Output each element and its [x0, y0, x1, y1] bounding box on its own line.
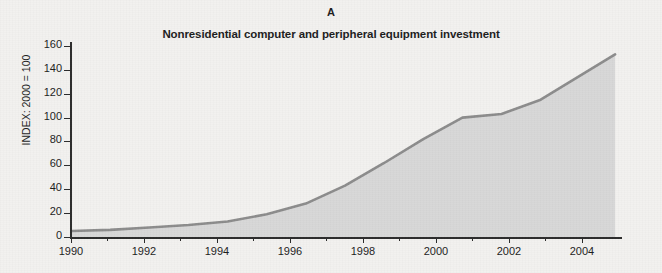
y-axis-line: [70, 42, 72, 238]
x-tick-label: 2004: [558, 245, 606, 257]
y-tick-label: 0: [22, 229, 62, 241]
x-tick-mark-minor: [326, 237, 327, 241]
x-tick-mark: [363, 237, 364, 243]
x-tick-mark: [290, 237, 291, 243]
y-tick-label: 40: [22, 181, 62, 193]
x-tick-mark: [509, 237, 510, 243]
y-tick-label: 60: [22, 157, 62, 169]
x-tick-mark: [71, 237, 72, 243]
y-tick-label: 80: [22, 133, 62, 145]
x-tick-mark-minor: [399, 237, 400, 241]
y-tick-label: 20: [22, 205, 62, 217]
plot-area: [71, 46, 619, 237]
x-tick-mark-minor: [107, 237, 108, 241]
series-fill: [71, 54, 615, 237]
x-tick-label: 2002: [485, 245, 533, 257]
x-tick-label: 1996: [266, 245, 314, 257]
y-tick-label: 120: [22, 86, 62, 98]
x-tick-label: 1990: [47, 245, 95, 257]
y-tick-label: 100: [22, 110, 62, 122]
y-tick-label: 140: [22, 62, 62, 74]
chart-figure: A Nonresidential computer and peripheral…: [0, 0, 662, 273]
x-tick-label: 1998: [339, 245, 387, 257]
x-tick-mark: [582, 237, 583, 243]
x-tick-mark: [144, 237, 145, 243]
panel-label: A: [0, 6, 662, 18]
x-tick-mark-minor: [472, 237, 473, 241]
series-area-chart: [71, 46, 619, 237]
x-tick-mark: [436, 237, 437, 243]
x-axis-line: [70, 237, 622, 239]
y-tick-label: 160: [22, 38, 62, 50]
x-tick-mark: [217, 237, 218, 243]
x-tick-mark-minor: [545, 237, 546, 241]
x-tick-label: 2000: [412, 245, 460, 257]
x-tick-label: 1992: [120, 245, 168, 257]
x-tick-mark-minor: [253, 237, 254, 241]
x-tick-mark-minor: [180, 237, 181, 241]
x-tick-label: 1994: [193, 245, 241, 257]
chart-title: Nonresidential computer and peripheral e…: [0, 28, 662, 40]
y-axis-label: INDEX: 2000 = 100: [20, 30, 32, 170]
